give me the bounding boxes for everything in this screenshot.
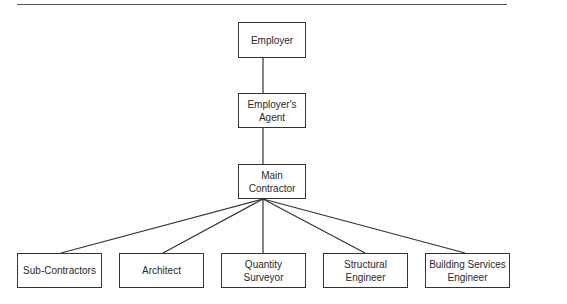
edge-main-structural-engineer xyxy=(263,199,365,253)
edge-main-building-services xyxy=(263,199,465,253)
node-quantity-surveyor: Quantity Surveyor xyxy=(221,253,306,288)
edge-main-architect xyxy=(163,199,263,253)
node-employer: Employer xyxy=(238,22,306,58)
node-label: Quantity Surveyor xyxy=(243,258,283,284)
edge-main-sub-contractors xyxy=(61,199,263,253)
node-label: Main Contractor xyxy=(249,169,296,195)
node-label: Building Services Engineer xyxy=(429,258,506,284)
node-label: Sub-Contractors xyxy=(23,264,96,277)
node-sub-contractors: Sub-Contractors xyxy=(17,253,102,288)
node-architect: Architect xyxy=(119,253,204,288)
node-label: Structural Engineer xyxy=(344,258,387,284)
node-structural-engineer: Structural Engineer xyxy=(323,253,408,288)
node-label: Employer xyxy=(251,34,293,47)
node-label: Employer's Agent xyxy=(247,98,296,124)
node-building-services-engineer: Building Services Engineer xyxy=(425,253,510,288)
node-employers-agent: Employer's Agent xyxy=(238,93,306,128)
node-main-contractor: Main Contractor xyxy=(238,164,306,199)
node-label: Architect xyxy=(142,264,181,277)
